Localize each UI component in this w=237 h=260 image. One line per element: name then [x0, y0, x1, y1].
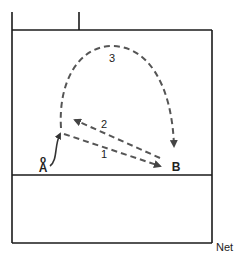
path-2-number: 2 [101, 118, 107, 130]
court-lines [12, 12, 212, 243]
court-diagram: 3 2 1 o A B Net [0, 0, 237, 260]
net-label: Net [216, 241, 233, 253]
path-1-number: 1 [101, 148, 107, 160]
path-1-line [64, 134, 160, 166]
path-3-arc [61, 46, 174, 146]
player-a-move-arrow [50, 134, 60, 166]
path-2-line [75, 120, 160, 158]
path-3-number: 3 [109, 52, 115, 64]
player-b-label: B [172, 160, 181, 174]
player-a-label: A [39, 161, 48, 175]
